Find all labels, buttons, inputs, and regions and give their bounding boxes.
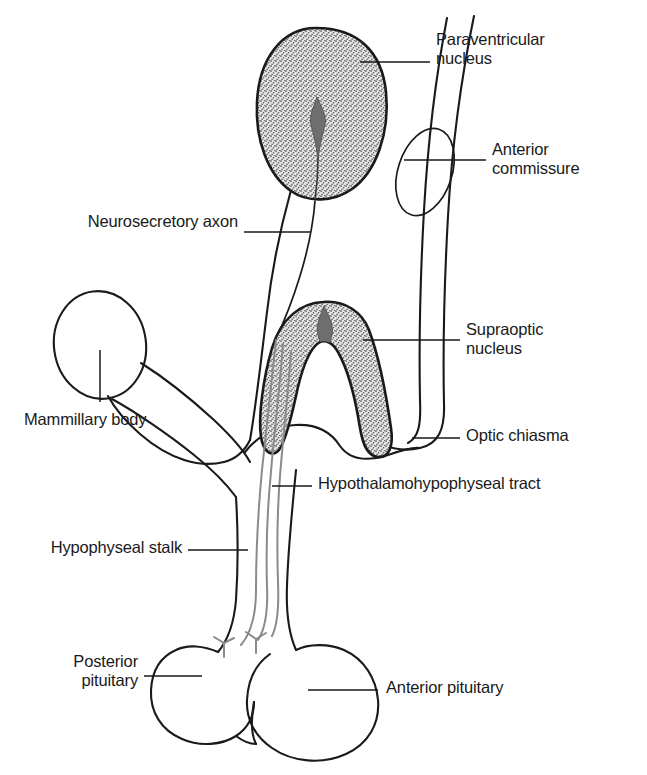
paraventricular-nucleus-group xyxy=(257,28,387,200)
axon-terminal-branches xyxy=(214,632,266,657)
label-supraoptic-nucleus: Supraoptic nucleus xyxy=(466,320,626,359)
label-mammillary-body: Mammillary body xyxy=(24,410,224,429)
hypothalamus-right-wall-outer xyxy=(408,18,447,443)
infundibulum-left-contour xyxy=(108,396,250,464)
label-paraventricular-nucleus: Paraventricular nucleus xyxy=(436,30,636,69)
label-hypophyseal-stalk: Hypophyseal stalk xyxy=(22,538,182,557)
hypophyseal-stalk-left-wall xyxy=(218,497,238,652)
posterior-pituitary-shape xyxy=(151,646,254,744)
hypothalamohypophyseal-tract-group xyxy=(214,340,291,657)
label-anterior-pituitary: Anterior pituitary xyxy=(386,678,586,697)
anterior-pituitary-shape xyxy=(247,645,378,761)
hypophyseal-stalk-right-wall xyxy=(287,470,296,650)
label-optic-chiasma: Optic chiasma xyxy=(466,426,636,445)
label-anterior-commissure: Anterior commissure xyxy=(492,140,642,179)
label-neurosecretory-axon: Neurosecretory axon xyxy=(30,212,238,231)
figure-root: Paraventricular nucleus Anterior commiss… xyxy=(0,0,647,775)
label-posterior-pituitary: Posterior pituitary xyxy=(20,652,138,691)
pituitary-lobe-interface xyxy=(252,702,256,744)
axon-terminal-1 xyxy=(214,637,234,657)
hypothalamus-right-wall-inner xyxy=(377,16,474,450)
label-hypothalamohypophyseal-tract: Hypothalamohypophyseal tract xyxy=(318,474,638,493)
axon-terminal-2 xyxy=(246,632,266,653)
